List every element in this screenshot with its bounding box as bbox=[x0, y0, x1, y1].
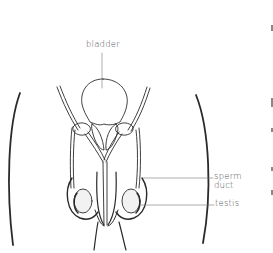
edge-mark bbox=[271, 167, 273, 171]
bladder bbox=[82, 79, 128, 125]
right-sperm-duct-outer bbox=[128, 87, 147, 130]
bladder-label: bladder bbox=[86, 40, 120, 49]
right-thigh-outline bbox=[196, 95, 208, 243]
left-duct-loop bbox=[73, 123, 91, 135]
right-seminal-vesicle bbox=[106, 124, 118, 150]
edge-mark bbox=[271, 98, 273, 107]
left-thigh-outline bbox=[9, 93, 20, 245]
edge-mark bbox=[271, 128, 273, 132]
right-leg-line bbox=[119, 222, 126, 250]
left-converging-duct-2 bbox=[88, 132, 105, 160]
reproductive-system-diagram bbox=[0, 0, 273, 253]
urethra-left bbox=[103, 162, 104, 225]
sperm-duct-label-line2: duct bbox=[214, 181, 254, 190]
right-sperm-duct-inner bbox=[131, 88, 150, 131]
left-vas-deferens-inner bbox=[73, 130, 75, 188]
edge-mark bbox=[271, 25, 273, 31]
right-vas-deferens-outer bbox=[139, 128, 141, 188]
edge-mark bbox=[271, 190, 273, 195]
testis-label: testis bbox=[215, 199, 239, 208]
left-sperm-duct-outer bbox=[57, 87, 78, 130]
right-converging-duct bbox=[106, 134, 122, 162]
right-vas-deferens-inner bbox=[136, 130, 138, 188]
left-leg-line bbox=[94, 222, 98, 250]
sperm-duct-label: sperm duct bbox=[214, 172, 254, 190]
left-sperm-duct-inner bbox=[60, 86, 80, 128]
